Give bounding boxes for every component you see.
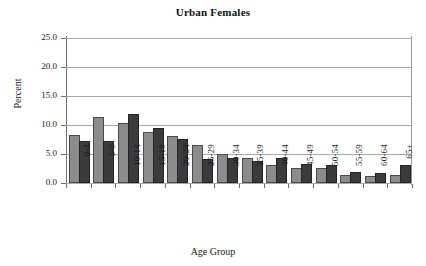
x-tick-label: 50-54 xyxy=(330,144,340,196)
x-tick-label: 40-44 xyxy=(280,144,290,196)
x-tick-mark xyxy=(66,184,67,188)
x-tick-label: 10-14 xyxy=(132,144,142,196)
x-tick-label: 30-34 xyxy=(231,144,241,196)
x-tick-label: 60-64 xyxy=(379,144,389,196)
x-tick-label: 35-39 xyxy=(255,144,265,196)
x-tick-label: 55-59 xyxy=(354,144,364,196)
x-tick-label: 25-29 xyxy=(206,144,216,196)
x-tick-label: 5-9 xyxy=(107,144,117,196)
y-tick-label: 25.0 xyxy=(17,33,57,42)
x-tick-label: 0-4 xyxy=(82,144,92,196)
y-tick-label: 5.0 xyxy=(17,149,57,158)
y-tick-label: 15.0 xyxy=(17,91,57,100)
y-tick-label: 20.0 xyxy=(17,62,57,71)
y-tick-label: 10.0 xyxy=(17,120,57,129)
y-tick-label: 0.0 xyxy=(17,178,57,187)
x-tick-label: 65+ xyxy=(404,144,414,196)
chart-title: Urban Females xyxy=(0,6,426,18)
x-tick-label: 45-49 xyxy=(305,144,315,196)
x-tick-label: 20-24 xyxy=(181,144,191,196)
x-axis-label: Age Group xyxy=(0,246,426,257)
x-tick-label: 15-19 xyxy=(157,144,167,196)
chart-figure: Urban Females Percent 0.05.010.015.020.0… xyxy=(0,0,426,266)
